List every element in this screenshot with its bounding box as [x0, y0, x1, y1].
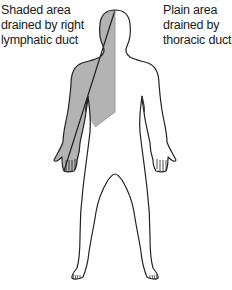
body-diagram — [0, 0, 232, 290]
right-hand-fingers — [157, 159, 166, 172]
shaded-region — [54, 10, 115, 172]
